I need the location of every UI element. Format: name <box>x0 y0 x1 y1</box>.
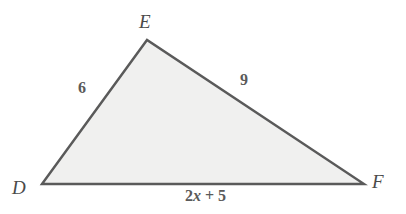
vertex-label-e: E <box>139 12 151 31</box>
side-length-label-de: 6 <box>78 80 86 96</box>
side-df-variable: x <box>193 187 201 204</box>
vertex-label-f: F <box>372 172 384 191</box>
triangle-figure: E D F 6 9 2x + 5 <box>0 0 406 214</box>
side-length-label-df: 2x + 5 <box>185 188 226 204</box>
side-df-coefficient: 2 <box>185 187 193 204</box>
vertex-label-d: D <box>12 178 26 197</box>
triangle-polygon <box>42 40 364 184</box>
side-df-constant: + 5 <box>201 187 226 204</box>
side-length-label-ef: 9 <box>240 72 248 88</box>
triangle-shape <box>0 0 406 214</box>
